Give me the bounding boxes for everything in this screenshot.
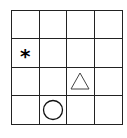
cell-r0-c1 xyxy=(40,11,68,39)
cell-r3-c0 xyxy=(12,96,40,124)
cell-r0-c2 xyxy=(67,11,95,39)
star-icon: * xyxy=(20,46,30,66)
cell-r2-c1 xyxy=(40,68,68,96)
cell-r2-c2 xyxy=(67,68,95,96)
triangle-icon xyxy=(70,71,90,91)
cell-r0-c0 xyxy=(12,11,40,39)
circle-icon xyxy=(42,99,64,121)
cell-r3-c3 xyxy=(95,96,123,124)
cell-r2-c0 xyxy=(12,68,40,96)
cell-r1-c3 xyxy=(95,39,123,67)
cell-r1-c1 xyxy=(40,39,68,67)
cell-r0-c3 xyxy=(95,11,123,39)
cell-r2-c3 xyxy=(95,68,123,96)
cell-r3-c2 xyxy=(67,96,95,124)
grid-board: * xyxy=(11,10,123,125)
cell-r1-c2 xyxy=(67,39,95,67)
cell-r3-c1 xyxy=(40,96,68,124)
cell-r1-c0: * xyxy=(12,39,40,67)
